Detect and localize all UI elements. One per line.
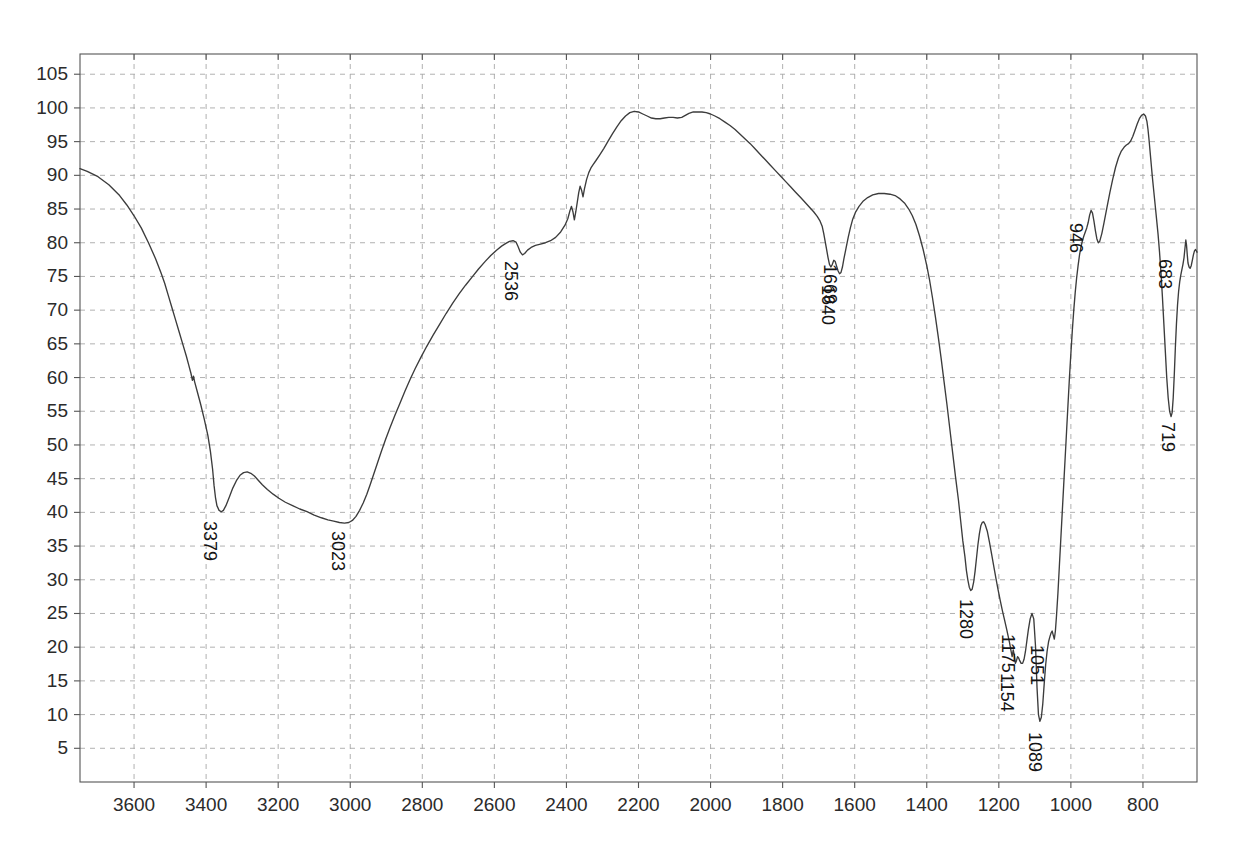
y-tick-label: 65 [6, 333, 68, 355]
x-tick-label: 1600 [815, 794, 895, 816]
x-tick-label: 3400 [166, 794, 246, 816]
x-tick-label: 1400 [887, 794, 967, 816]
y-tick-label: 10 [6, 704, 68, 726]
peak-label-1154: 1154 [996, 673, 1017, 712]
y-tick-label: 80 [6, 232, 68, 254]
x-tick-label: 2000 [671, 794, 751, 816]
x-tick-label: 2600 [454, 794, 534, 816]
peak-label-1640: 1640 [817, 285, 838, 325]
y-tick-label: 40 [6, 501, 68, 523]
y-tick-label: 20 [6, 636, 68, 658]
y-tick-label: 35 [6, 535, 68, 557]
y-tick-label: 15 [6, 670, 68, 692]
y-tick-label: 25 [6, 602, 68, 624]
x-tick-label: 1200 [959, 794, 1039, 816]
y-tick-label: 50 [6, 434, 68, 456]
y-tick-label: 105 [6, 63, 68, 85]
x-tick-label: 3600 [94, 794, 174, 816]
x-tick-label: 3000 [310, 794, 390, 816]
peak-label-1089: 1089 [1024, 732, 1045, 772]
x-tick-label: 2400 [526, 794, 606, 816]
spectrum-plot-svg [0, 0, 1240, 842]
y-tick-label: 70 [6, 299, 68, 321]
y-tick-label: 75 [6, 265, 68, 287]
y-tick-label: 5 [6, 737, 68, 759]
peak-label-1175: 1175 [997, 634, 1018, 673]
axis-ticks [74, 54, 1143, 788]
y-tick-label: 95 [6, 131, 68, 153]
peak-label-1280: 1280 [955, 599, 976, 639]
y-tick-label: 45 [6, 468, 68, 490]
peak-label-1051: 1051 [1026, 645, 1047, 685]
x-tick-label: 1800 [743, 794, 823, 816]
x-tick-label: 800 [1103, 794, 1183, 816]
x-tick-label: 2200 [599, 794, 679, 816]
peak-label-3023: 3023 [327, 531, 348, 571]
peak-label-683: 683 [1154, 259, 1175, 289]
y-tick-label: 100 [6, 97, 68, 119]
y-tick-label: 85 [6, 198, 68, 220]
peak-label-3379: 3379 [199, 521, 220, 561]
peak-label-719: 719 [1157, 422, 1178, 452]
x-tick-label: 3200 [238, 794, 318, 816]
x-tick-label: 1000 [1031, 794, 1111, 816]
ir-spectrum-chart: 1051009590858075706560555045403530252015… [0, 0, 1240, 842]
peak-label-946: 946 [1065, 223, 1086, 253]
y-tick-label: 30 [6, 569, 68, 591]
y-tick-label: 90 [6, 164, 68, 186]
peak-label-2536: 2536 [500, 261, 521, 301]
x-tick-label: 2800 [382, 794, 462, 816]
y-tick-label: 60 [6, 367, 68, 389]
y-tick-label: 55 [6, 400, 68, 422]
